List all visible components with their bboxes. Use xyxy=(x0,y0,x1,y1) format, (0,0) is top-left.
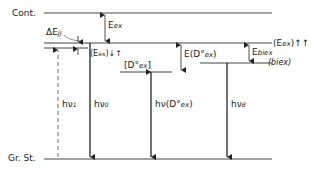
exciton-split-label: (Eex)↓↑ xyxy=(90,50,122,58)
e-biex-label: Ebiex xyxy=(252,48,273,57)
e-d0ex-label: E(D°ex) xyxy=(184,50,217,59)
delta-ejj-label: ΔEjj xyxy=(46,28,62,37)
bound-exciton-label: [D°ex] xyxy=(124,61,151,70)
ground-state-label: Gr. St. xyxy=(8,154,36,163)
hvb-label: hνB xyxy=(231,100,246,109)
hv0-label: hν0 xyxy=(94,100,109,109)
biexciton-label: (biex) xyxy=(268,59,291,67)
hv-d0ex-label: hν(D°ex) xyxy=(155,100,193,109)
e-ex-label: Eex xyxy=(108,21,122,30)
continuum-label: Cont. xyxy=(12,9,36,18)
hv1-label: hν1 xyxy=(62,100,77,109)
exciton-parallel-label: (Eex)↑↑ xyxy=(273,39,309,48)
